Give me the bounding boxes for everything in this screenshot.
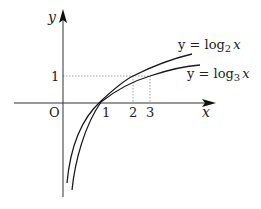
- curve-log3: [72, 65, 200, 190]
- label-log3-base: 3: [234, 72, 240, 83]
- origin-label: O: [49, 105, 60, 120]
- log-graph: y x O 1 1 2 3 y = log2x y = log3x: [0, 0, 261, 209]
- y-tick-1: 1: [51, 69, 59, 84]
- label-log2-prefix: y = log: [177, 37, 225, 52]
- label-log2-base: 2: [225, 43, 231, 54]
- label-log3-prefix: y = log: [186, 66, 234, 81]
- x-tick-1: 1: [102, 105, 110, 120]
- x-axis-label: x: [202, 104, 210, 120]
- y-axis-label: y: [47, 9, 57, 25]
- curve-label-log3: y = log3x: [186, 66, 250, 83]
- label-log3-var: x: [242, 66, 250, 81]
- x-tick-3: 3: [146, 105, 154, 120]
- curve-label-log2: y = log2x: [177, 37, 241, 54]
- label-log2-var: x: [233, 37, 241, 52]
- x-tick-2: 2: [129, 105, 137, 120]
